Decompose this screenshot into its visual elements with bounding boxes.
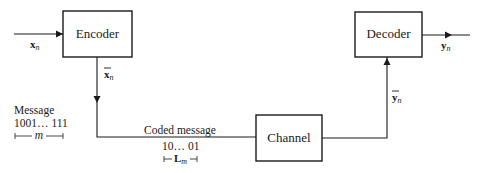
svg-text:xn: xn: [104, 68, 114, 82]
message-annotation: Message 1001… 111 m: [14, 104, 68, 141]
coded-length-symbol: Lm: [174, 152, 187, 166]
down-arrow-icon: [94, 96, 101, 103]
input-signal-label: xn: [30, 38, 40, 52]
encoder-label: Encoder: [76, 26, 120, 41]
message-bits: 1001… 111: [14, 117, 68, 129]
message-length-bracket: m: [15, 129, 63, 141]
message-length-symbol: m: [35, 129, 43, 141]
output-arrow-icon: [445, 32, 452, 39]
decoder-block: Decoder: [355, 12, 422, 57]
encoder-block: Encoder: [63, 11, 132, 57]
decoder-label: Decoder: [366, 26, 411, 41]
output-signal-label: yn: [441, 39, 451, 53]
encoder-channel-decoder-diagram: xn Encoder xn Message 1001… 111 m Coded …: [0, 0, 485, 173]
channel-output-signal-label: yn: [392, 91, 402, 105]
coded-message-title: Coded message: [144, 124, 216, 137]
message-title: Message: [14, 104, 54, 117]
coded-length-bracket: Lm: [164, 152, 197, 166]
coded-message-bits: 10… 01: [162, 140, 200, 152]
channel-label: Channel: [267, 130, 311, 145]
svg-text:yn: yn: [392, 91, 402, 105]
up-arrow-icon: [384, 58, 391, 65]
encoded-signal-label: xn: [104, 68, 114, 82]
input-arrow-icon: [56, 31, 63, 38]
channel-block: Channel: [256, 115, 322, 161]
coded-message-annotation: Coded message 10… 01 Lm: [144, 124, 216, 166]
channel-to-decoder-wire: [322, 57, 387, 138]
